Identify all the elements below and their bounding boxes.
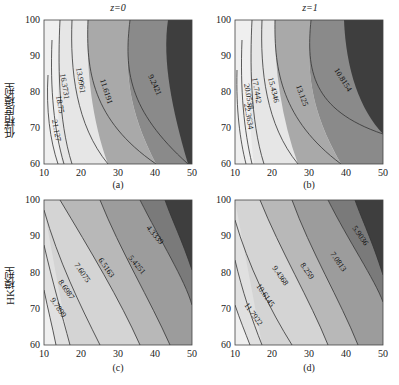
x-tick: 30 [106, 167, 130, 178]
y-tick: 90 [209, 50, 231, 61]
y-tick: 100 [18, 14, 40, 25]
x-tick: 10 [32, 167, 56, 178]
x-tick: 40 [334, 348, 358, 359]
x-tick: 10 [32, 348, 56, 359]
y-tick: 90 [18, 50, 40, 61]
x-tick: 20 [69, 167, 93, 178]
y-tick: 90 [209, 230, 231, 241]
x-tick: 40 [143, 167, 167, 178]
y-tick: 90 [18, 230, 40, 241]
panel-c-caption: (c) [98, 362, 138, 373]
x-tick: 30 [106, 348, 130, 359]
y-tick: 70 [18, 303, 40, 314]
panel-a-caption: (a) [98, 179, 138, 190]
y-tick: 100 [18, 194, 40, 205]
x-tick: 50 [371, 167, 395, 178]
y-tick: 100 [209, 14, 231, 25]
x-tick: 20 [260, 348, 284, 359]
panel-b: z=1 22.3634 20.0538 17.7442 15.4346 13.1… [200, 0, 399, 192]
y-tick: 80 [18, 267, 40, 278]
x-tick: 20 [260, 167, 284, 178]
y-tick: 70 [18, 122, 40, 133]
x-tick: 30 [297, 348, 321, 359]
y-tick: 70 [209, 303, 231, 314]
x-tick: 20 [69, 348, 93, 359]
x-tick: 40 [334, 167, 358, 178]
x-tick: 40 [143, 348, 167, 359]
x-tick: 10 [223, 348, 247, 359]
y-tick: 70 [209, 122, 231, 133]
y-tick: 80 [209, 267, 231, 278]
panel-d-caption: (d) [289, 362, 329, 373]
x-tick: 10 [223, 167, 247, 178]
contour-plot-c: 9.7899 8.6987 7.6075 6.5163 5.4251 4.333… [0, 190, 200, 385]
y-tick: 100 [209, 194, 231, 205]
panel-a: z=0 21.127 18.75 16.3731 13.9961 11.6191… [0, 0, 200, 192]
panel-b-caption: (b) [289, 179, 329, 190]
x-tick: 50 [371, 348, 395, 359]
y-tick: 80 [209, 86, 231, 97]
panel-d: 11.7922 10.6145 9.4368 8.259 7.0813 5.90… [200, 190, 399, 385]
x-tick: 30 [297, 167, 321, 178]
panel-c: 9.7899 8.6987 7.6075 6.5163 5.4251 4.333… [0, 190, 200, 385]
y-tick: 80 [18, 86, 40, 97]
